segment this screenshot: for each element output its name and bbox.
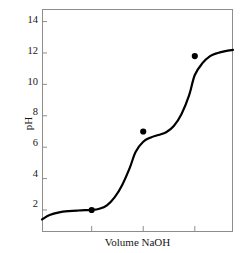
- ph-titration-chart: 14 12 10 8 6 4 2 pH Volume NaOH: [0, 0, 251, 253]
- x-axis-tick-marks: [92, 226, 195, 232]
- chart-canvas: [0, 0, 251, 253]
- y-axis-tick-marks: [42, 22, 47, 210]
- titration-curve: [42, 50, 233, 220]
- equivalence-point-markers: [89, 53, 198, 213]
